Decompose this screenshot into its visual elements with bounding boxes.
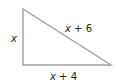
triangle-shape <box>23 9 111 65</box>
hypotenuse-label: x + 6 <box>64 23 92 34</box>
base-label: x + 4 <box>49 71 77 82</box>
right-triangle-diagram: x x + 6 x + 4 <box>0 0 117 84</box>
left-side-label: x <box>10 33 17 44</box>
